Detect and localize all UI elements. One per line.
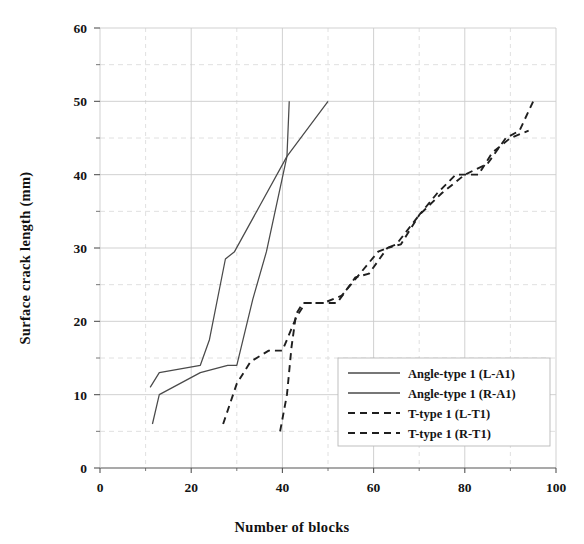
y-axis-title: Surface crack length (mm): [17, 172, 34, 345]
x-axis-title: Number of blocks: [235, 519, 350, 535]
x-tick-label: 40: [276, 480, 290, 495]
legend-label-2: Angle-type 1 (R-A1): [408, 387, 516, 401]
legend-label-1: Angle-type 1 (L-A1): [408, 367, 515, 381]
chart-background: [0, 0, 584, 544]
surface-crack-length-line-chart: 0204060801000102030405060 Number of bloc…: [0, 0, 584, 544]
x-tick-label: 60: [367, 480, 381, 495]
chart-figure: 0204060801000102030405060 Number of bloc…: [0, 0, 584, 544]
x-tick-label: 80: [458, 480, 472, 495]
y-tick-label: 20: [74, 314, 88, 329]
y-tick-label: 50: [74, 94, 88, 109]
x-tick-label: 20: [184, 480, 198, 495]
y-tick-label: 40: [74, 168, 88, 183]
y-tick-label: 10: [74, 388, 88, 403]
legend-label-3: T-type 1 (L-T1): [408, 407, 490, 421]
chart-legend: Angle-type 1 (L-A1)Angle-type 1 (R-A1)T-…: [338, 358, 550, 446]
x-tick-label: 100: [546, 480, 567, 495]
y-tick-label: 30: [74, 241, 88, 256]
x-tick-label: 0: [97, 480, 104, 495]
legend-label-4: T-type 1 (R-T1): [408, 427, 491, 441]
y-tick-label: 60: [74, 21, 88, 36]
y-tick-label: 0: [80, 461, 87, 476]
